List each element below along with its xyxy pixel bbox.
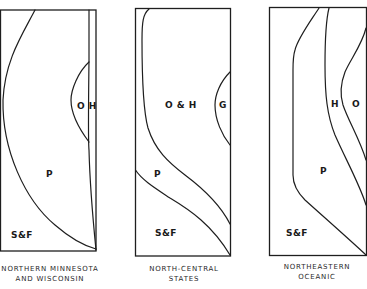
panel-northern-minnesota: O H P S&F — [1, 10, 97, 251]
zone-label-p: P — [320, 166, 327, 176]
zone-label-oh: O H — [77, 101, 97, 111]
caption-line: NORTHEASTERN — [267, 262, 367, 272]
panel-northeastern-oceanic: H O P S&F — [270, 8, 367, 256]
caption-northeastern-oceanic: NORTHEASTERN OCEANIC — [267, 262, 367, 282]
zone-boundary-oh-right — [88, 10, 96, 250]
zone-label-h: H — [331, 99, 339, 109]
zone-boundary-p-sf — [3, 10, 96, 249]
panel-frame — [270, 8, 367, 256]
caption-north-central: NORTH-CENTRAL STATES — [134, 264, 234, 284]
zone-label-p: P — [154, 169, 161, 179]
zone-boundary-p-sf — [136, 170, 231, 255]
zone-boundary-o-h — [341, 28, 366, 160]
caption-line: AND WISCONSIN — [0, 274, 100, 284]
zone-label-o: O — [352, 99, 360, 109]
caption-line: NORTHERN MINNESOTA — [0, 264, 100, 274]
zone-label-oh: O & H — [165, 100, 197, 110]
caption-line: STATES — [134, 274, 234, 284]
caption-line: OCEANIC — [267, 272, 367, 282]
pollen-zone-diagram: O H P S&F O & H G P S&F H O P S&F — [0, 0, 367, 289]
zone-label-sf: S&F — [11, 230, 33, 240]
panel-north-central: O & H G P S&F — [136, 9, 231, 257]
caption-northern-minnesota: NORTHERN MINNESOTA AND WISCONSIN — [0, 264, 100, 284]
zone-label-sf: S&F — [155, 228, 177, 238]
caption-line: NORTH-CENTRAL — [134, 264, 234, 274]
zone-label-p: P — [46, 169, 53, 179]
zone-label-g: G — [219, 100, 227, 110]
zone-label-sf: S&F — [286, 228, 308, 238]
